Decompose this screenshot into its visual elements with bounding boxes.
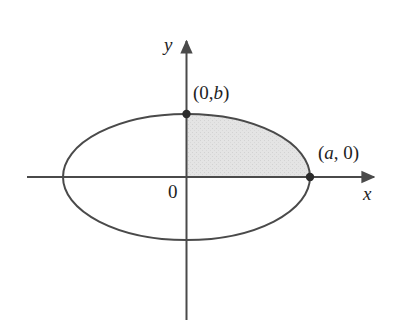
point-label-0-b-close: ) [223,82,229,103]
point-label-a-0-close: , 0) [334,142,359,163]
ellipse-figure: (0,b) (a, 0) 0 y x [0,0,393,331]
point-label-a-0: (a, 0) [318,143,359,162]
point-0-b-dot [182,110,190,118]
figure-canvas [0,0,393,331]
y-axis-label: y [164,35,172,54]
point-label-a-0-variable: a [324,142,334,163]
point-label-0-b-open: (0, [193,82,214,103]
point-label-0-b-variable: b [214,82,224,103]
point-a-0-dot [306,173,314,181]
origin-label: 0 [168,182,178,201]
x-axis-label: x [363,184,371,203]
point-label-0-b: (0,b) [193,83,229,102]
